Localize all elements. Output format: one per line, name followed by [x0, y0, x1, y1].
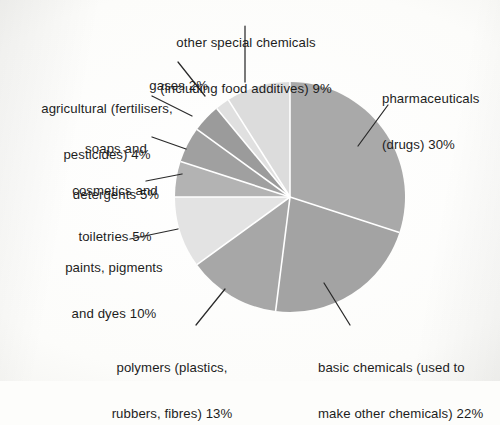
slice-label-basic-chemicals: basic chemicals (used to make other chem… [318, 329, 500, 425]
label-line-2: and dyes 10% [20, 306, 208, 321]
slice-label-pharmaceuticals: pharmaceuticals (drugs) 30% [382, 60, 500, 183]
label-line-1: paints, pigments [20, 260, 208, 275]
label-line-1: polymers (plastics, [72, 360, 272, 375]
label-line-1: pharmaceuticals [382, 91, 500, 106]
slice-label-polymers: polymers (plastics, rubbers, fibres) 13% [72, 329, 272, 425]
label-line-2: make other chemicals) 22% [318, 406, 500, 421]
label-line-1: cosmetics and [22, 183, 208, 198]
label-line-2: rubbers, fibres) 13% [72, 406, 272, 421]
label-line-1: basic chemicals (used to [318, 360, 500, 375]
label-line-2: (drugs) 30% [382, 137, 500, 152]
